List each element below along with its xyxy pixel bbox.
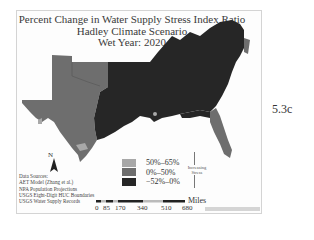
region-eastcoast-mid [244, 38, 250, 54]
data-sources: Data Sources: AET Model (Zhang et al.) N… [19, 173, 94, 204]
stress-line-2: Stress [182, 170, 212, 175]
legend-swatch-mid [122, 168, 136, 176]
scale-tick: 85 [103, 204, 110, 212]
legend-label: −52%–0% [146, 177, 180, 186]
legend-label: 50%–65% [146, 158, 179, 167]
scale-seg-6 [143, 200, 163, 203]
watermark [205, 207, 260, 211]
north-label: N [48, 151, 53, 159]
legend-item: 0%–50% [122, 168, 180, 178]
region-west-mid [22, 55, 108, 162]
scale-seg-1 [96, 200, 101, 203]
legend-swatch-dark [122, 178, 136, 186]
stress-label: Increasing Stress [182, 165, 212, 175]
legend-item: 50%–65% [122, 158, 180, 168]
scale-tick: 680 [182, 204, 193, 212]
scale-seg-7 [163, 200, 185, 203]
scale-seg-2 [101, 200, 106, 203]
scale-tick: 170 [115, 204, 126, 212]
region-light-dot [153, 112, 157, 116]
scale-seg-5 [118, 200, 143, 203]
scale-seg-4 [113, 200, 118, 203]
region-florida-mid [210, 108, 232, 158]
legend: 50%–65% 0%–50% −52%–0% [122, 158, 180, 187]
scale-tick: 340 [137, 204, 148, 212]
legend-swatch-light [122, 159, 136, 167]
figure-label: 5.3c [272, 102, 292, 117]
scale-seg-3 [106, 200, 113, 203]
legend-label: 0%–50% [146, 168, 175, 177]
legend-item: −52%–0% [122, 177, 180, 187]
source-line: USGS Water Supply Records [19, 198, 94, 204]
north-arrow-icon [50, 158, 58, 172]
scale-tick: 0 [95, 204, 99, 212]
scale-tick: 510 [161, 204, 172, 212]
